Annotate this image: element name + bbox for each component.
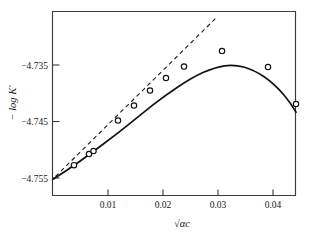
data-marker (293, 101, 298, 106)
data-marker (115, 118, 120, 123)
x-axis-title: √αc (174, 218, 190, 229)
x-tick-label: 0.02 (155, 200, 172, 210)
y-tick-label: −4.755 (21, 174, 48, 184)
data-marker (265, 64, 270, 69)
y-tick-label: −4.745 (21, 117, 48, 127)
data-marker (219, 48, 224, 53)
data-marker (163, 75, 168, 80)
data-marker (71, 163, 76, 168)
data-marker (147, 88, 152, 93)
figure-container: 0.01 0.02 0.03 0.04 −4.735 −4.745 −4.755… (0, 0, 311, 235)
chart-plot: 0.01 0.02 0.03 0.04 −4.735 −4.745 −4.755… (0, 0, 311, 235)
x-tick-label: 0.01 (100, 200, 117, 210)
data-marker (91, 148, 96, 153)
y-axis-title: − log K′ (7, 85, 18, 121)
data-marker (131, 103, 136, 108)
x-tick-label: 0.03 (210, 200, 227, 210)
x-tick-label: 0.04 (265, 200, 282, 210)
data-marker (181, 64, 186, 69)
y-tick-label: −4.735 (21, 61, 48, 71)
